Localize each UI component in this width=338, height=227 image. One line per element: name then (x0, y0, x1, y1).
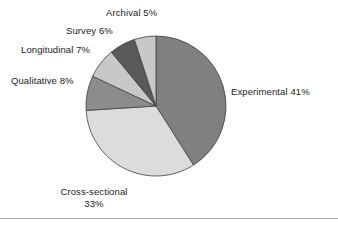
pie-label-survey: Survey 6% (66, 25, 113, 37)
pie-label-experimental: Experimental 41% (231, 86, 310, 98)
pie-label-cross-sectional: Cross-sectional 33% (47, 186, 141, 209)
pie-label-longitudinal: Longitudinal 7% (21, 44, 90, 56)
pie-label-cross-sectional-line2: 33% (84, 198, 103, 209)
pie-slice-group (86, 36, 226, 176)
pie-label-qualitative: Qualitative 8% (11, 75, 74, 87)
pie-label-cross-sectional-line1: Cross-sectional (61, 186, 128, 197)
pie-label-archival: Archival 5% (106, 7, 157, 19)
pie-chart-figure: Experimental 41% Archival 5% Survey 6% L… (0, 0, 338, 227)
footer-divider (0, 218, 338, 219)
